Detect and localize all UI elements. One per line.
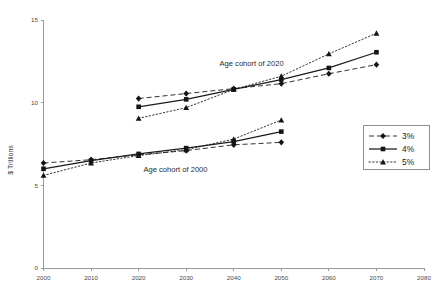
data-point-4pct-2030 bbox=[184, 97, 189, 102]
legend-key-square-icon bbox=[368, 143, 398, 155]
data-point-3pct-2050 bbox=[279, 139, 285, 145]
series-group-cohort-2020 bbox=[136, 30, 380, 120]
data-point-4pct-2000 bbox=[41, 167, 46, 172]
data-point-5pct-2030 bbox=[183, 105, 189, 110]
data-point-4pct-2020 bbox=[136, 105, 141, 110]
data-point-3pct-2020 bbox=[136, 95, 142, 101]
legend-item-5pct: 5% bbox=[368, 155, 424, 168]
legend-key-triangle-icon bbox=[368, 156, 398, 168]
y-axis-title: $ Trillions bbox=[7, 145, 14, 175]
x-tick-label-2040: 2040 bbox=[227, 274, 241, 281]
data-point-5pct-2020 bbox=[136, 115, 142, 120]
data-point-4pct-2050 bbox=[279, 129, 284, 134]
x-tick-label-2000: 2000 bbox=[37, 274, 51, 281]
legend-item-3pct: 3% bbox=[368, 129, 424, 142]
series-line-3pct bbox=[139, 65, 377, 99]
legend-item-4pct: 4% bbox=[368, 142, 424, 155]
annotation-cohort-2000: Age cohort of 2000 bbox=[143, 165, 207, 174]
data-point-5pct-2050 bbox=[278, 117, 284, 122]
y-tick-label-10: 10 bbox=[31, 99, 38, 106]
data-point-5pct-2000 bbox=[41, 173, 47, 178]
x-tick-label-2070: 2070 bbox=[370, 274, 384, 281]
legend-label: 5% bbox=[402, 157, 414, 167]
x-tick-label-2010: 2010 bbox=[84, 274, 98, 281]
legend-marker-diamond bbox=[380, 132, 386, 138]
data-point-3pct-2070 bbox=[374, 62, 380, 68]
annotation-layer: Age cohort of 2020Age cohort of 2000 bbox=[143, 59, 283, 174]
x-tick-label-2060: 2060 bbox=[322, 274, 336, 281]
data-point-4pct-2060 bbox=[327, 66, 332, 71]
y-tick-label-0: 0 bbox=[35, 264, 39, 271]
data-point-4pct-2070 bbox=[374, 50, 379, 55]
chart-container: 0510152000201020202030204020502060207020… bbox=[0, 0, 436, 300]
legend-marker-square bbox=[381, 146, 386, 151]
series-line-5pct bbox=[139, 33, 377, 118]
data-point-5pct-2060 bbox=[326, 51, 332, 56]
x-tick-label-2050: 2050 bbox=[274, 274, 288, 281]
data-point-5pct-2040 bbox=[231, 136, 237, 141]
y-tick-label-15: 15 bbox=[31, 16, 38, 23]
data-point-3pct-2000 bbox=[41, 160, 47, 166]
legend-key-diamond-icon bbox=[368, 130, 398, 142]
legend-label: 3% bbox=[402, 131, 414, 141]
x-tick-label-2080: 2080 bbox=[417, 274, 431, 281]
data-point-5pct-2070 bbox=[374, 30, 380, 35]
data-point-3pct-2060 bbox=[326, 71, 332, 77]
series-line-3pct bbox=[44, 142, 282, 163]
x-tick-label-2030: 2030 bbox=[179, 274, 193, 281]
data-point-3pct-2030 bbox=[183, 90, 189, 96]
x-tick-label-2020: 2020 bbox=[132, 274, 146, 281]
series-line-4pct bbox=[44, 132, 282, 169]
data-point-5pct-2050 bbox=[278, 73, 284, 78]
series-layer bbox=[41, 30, 380, 177]
y-tick-label-5: 5 bbox=[35, 182, 39, 189]
legend-label: 4% bbox=[402, 144, 414, 154]
annotation-cohort-2020: Age cohort of 2020 bbox=[219, 59, 283, 68]
chart-legend: 3%4%5% bbox=[363, 125, 430, 170]
